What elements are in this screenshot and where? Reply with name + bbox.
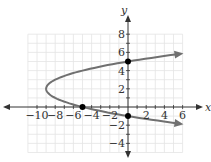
axes <box>3 15 203 158</box>
svg-text:2: 2 <box>118 83 125 96</box>
grid <box>28 34 183 152</box>
svg-text:−8: −8 <box>47 109 63 122</box>
intercept-point <box>125 113 131 119</box>
svg-text:x: x <box>205 101 211 114</box>
parabola-graph: −10−8−6−4−22468642−2−4xy <box>0 0 211 162</box>
svg-text:6: 6 <box>179 109 186 122</box>
svg-text:−10: −10 <box>25 109 48 122</box>
svg-text:−4: −4 <box>83 109 99 122</box>
intercept-point <box>125 59 131 65</box>
tick-labels: −10−8−6−4−22468642−2−4xy <box>25 4 211 150</box>
svg-text:4: 4 <box>161 109 168 122</box>
svg-text:y: y <box>120 4 128 17</box>
svg-text:6: 6 <box>118 46 125 59</box>
svg-text:−6: −6 <box>65 109 81 122</box>
svg-text:−4: −4 <box>109 137 125 150</box>
svg-text:−2: −2 <box>109 119 125 132</box>
svg-text:2: 2 <box>143 109 150 122</box>
svg-text:4: 4 <box>118 65 125 78</box>
svg-text:8: 8 <box>118 28 125 41</box>
